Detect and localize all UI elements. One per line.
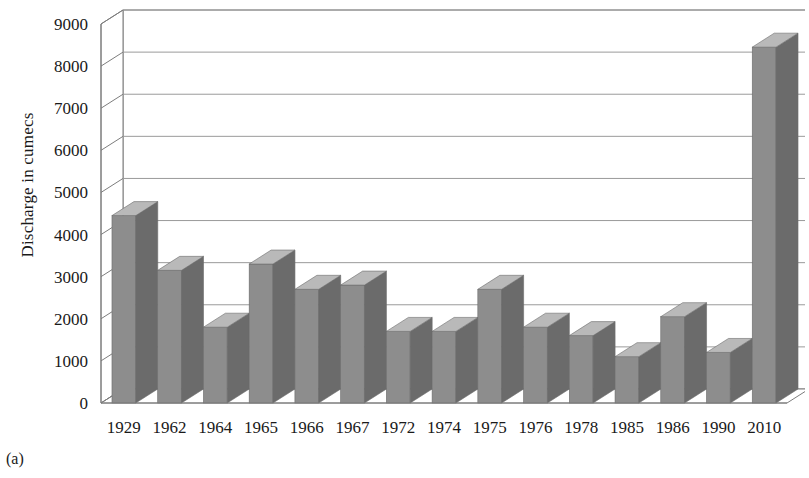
- bar-side-face: [273, 250, 295, 403]
- x-tick-label-1929: 1929: [98, 418, 150, 438]
- y-tick-label: 1000: [28, 353, 88, 370]
- figure-caption: (a): [6, 450, 24, 468]
- y-tick-label: 2000: [28, 311, 88, 328]
- bar-1962: [158, 256, 204, 403]
- bar-front-face: [524, 327, 548, 403]
- bar-front-face: [615, 357, 639, 403]
- bar-front-face: [707, 352, 731, 403]
- bar-1964: [203, 313, 249, 403]
- x-tick-label-1990: 1990: [693, 418, 745, 438]
- x-tick-label-1962: 1962: [144, 418, 196, 438]
- bar-front-face: [386, 331, 410, 403]
- bar-2010: [752, 33, 798, 403]
- bar-1990: [707, 338, 753, 403]
- bar-1929: [112, 202, 158, 403]
- x-tick-label-1986: 1986: [647, 418, 699, 438]
- bar-side-face: [319, 275, 341, 403]
- bar-side-face: [136, 202, 158, 403]
- bar-1978: [569, 322, 615, 403]
- bar-front-face: [478, 289, 502, 403]
- bar-side-face: [685, 303, 707, 403]
- bar-side-face: [547, 313, 569, 403]
- bar-front-face: [112, 216, 136, 403]
- bar-side-face: [227, 313, 249, 403]
- y-tick-label: 7000: [28, 100, 88, 117]
- y-tick-label: 8000: [28, 58, 88, 75]
- x-tick-label-1972: 1972: [372, 418, 424, 438]
- x-tick-label-1964: 1964: [189, 418, 241, 438]
- bar-side-face: [502, 275, 524, 403]
- bar-front-face: [249, 264, 273, 403]
- y-tick-label: 6000: [28, 142, 88, 159]
- bar-side-face: [181, 256, 203, 403]
- bar-side-face: [776, 33, 798, 403]
- bar-front-face: [569, 336, 593, 403]
- y-tick-label: 5000: [28, 184, 88, 201]
- bar-1972: [386, 317, 432, 403]
- bar-front-face: [752, 47, 776, 403]
- y-tick-label: 3000: [28, 269, 88, 286]
- x-tick-label-1965: 1965: [235, 418, 287, 438]
- x-tick-label-1975: 1975: [464, 418, 516, 438]
- bar-1975: [478, 275, 524, 403]
- x-axis-tick-labels: 1929196219641965196619671972197419751976…: [95, 418, 805, 446]
- bar-1965: [249, 250, 295, 403]
- x-tick-label-1974: 1974: [418, 418, 470, 438]
- x-tick-label-1985: 1985: [601, 418, 653, 438]
- bar-front-face: [432, 331, 456, 403]
- bar-front-face: [661, 317, 685, 403]
- bar-front-face: [341, 285, 365, 403]
- bar-front-face: [203, 327, 227, 403]
- x-tick-label-1966: 1966: [281, 418, 333, 438]
- bar-1976: [524, 313, 570, 403]
- bar-side-face: [410, 317, 432, 403]
- bar-1986: [661, 303, 707, 403]
- bar-1974: [432, 317, 478, 403]
- bar-side-face: [456, 317, 478, 403]
- y-axis-tick-labels: 0100020003000400050006000700080009000: [26, 0, 88, 420]
- bar-front-face: [295, 289, 319, 403]
- x-tick-label-2010: 2010: [738, 418, 790, 438]
- bar-1967: [341, 271, 387, 403]
- bar-1966: [295, 275, 341, 403]
- bar-side-face: [364, 271, 386, 403]
- plot-area: [95, 4, 805, 416]
- y-tick-label: 9000: [28, 16, 88, 33]
- chart-canvas: [95, 4, 805, 416]
- bar-chart-figure: Discharge in cumecs 01000200030004000500…: [0, 0, 809, 478]
- x-tick-label-1976: 1976: [510, 418, 562, 438]
- bar-front-face: [158, 270, 182, 403]
- x-tick-label-1978: 1978: [555, 418, 607, 438]
- y-tick-label: 4000: [28, 227, 88, 244]
- y-tick-label: 0: [28, 395, 88, 412]
- x-tick-label-1967: 1967: [327, 418, 379, 438]
